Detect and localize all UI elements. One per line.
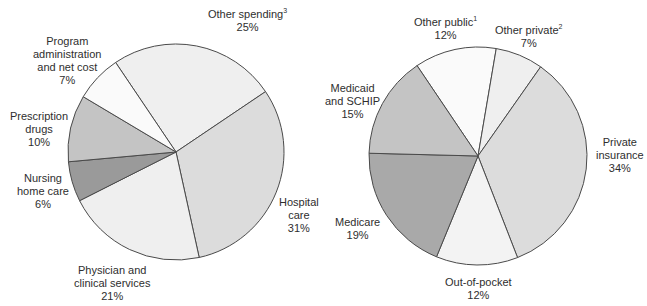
label-program-administration: Program administration and net cost 7%	[33, 35, 101, 87]
label-nursing-home-care: Nursing home care 6%	[17, 172, 69, 211]
label-prescription-drugs: Prescription drugs 10%	[10, 110, 68, 149]
label-other-spending: Other spending3 25%	[208, 8, 287, 34]
label-other-public: Other public1 12%	[414, 16, 477, 42]
label-medicaid-schip: Medicaid and SCHIP 15%	[325, 82, 380, 121]
label-out-of-pocket: Out-of-pocket 12%	[445, 276, 512, 302]
label-medicare: Medicare 19%	[335, 216, 380, 242]
label-private-insurance: Private insurance 34%	[596, 136, 644, 175]
label-physician-clinical-services: Physician and clinical services 21%	[74, 264, 150, 303]
label-other-private: Other private2 7%	[495, 24, 563, 50]
label-hospital-care: Hospital care 31%	[279, 196, 319, 235]
pie-chart-spending-by-payer	[369, 47, 587, 265]
